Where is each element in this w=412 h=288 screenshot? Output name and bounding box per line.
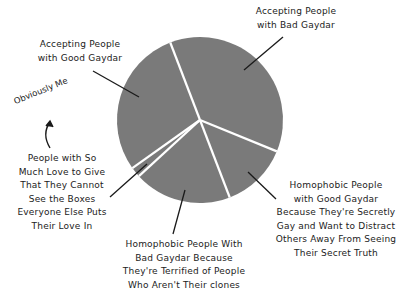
label-line: Gay and Want to Distract xyxy=(266,220,406,234)
label-line: Homophobic People With xyxy=(114,238,254,252)
label-line: Much Love to Give xyxy=(12,166,112,180)
label-line: Their Love In xyxy=(12,220,112,234)
leader-accepting-bad xyxy=(244,37,283,70)
label-line: with Bad Gaydar xyxy=(246,19,346,33)
label-line: They're Terrified of People xyxy=(114,265,254,279)
label-homophobic-good: Homophobic People with Good Gaydar Becau… xyxy=(266,179,406,260)
label-line: That They Cannot xyxy=(12,179,112,193)
label-line: with Good Gaydar xyxy=(266,193,406,207)
label-line: Because They're Secretly xyxy=(266,206,406,220)
arrow-icon xyxy=(46,121,53,148)
label-line: Others Away From Seeing xyxy=(266,233,406,247)
label-homophobic-bad: Homophobic People With Bad Gaydar Becaus… xyxy=(114,238,254,288)
label-line: Their Secret Truth xyxy=(266,247,406,261)
label-line: Bad Gaydar Because xyxy=(114,252,254,266)
label-so-much-love: People with So Much Love to Give That Th… xyxy=(12,152,112,233)
label-accepting-good: Accepting People with Good Gaydar xyxy=(30,38,130,65)
label-line: Accepting People xyxy=(246,5,346,19)
label-line: Who Aren't Their clones xyxy=(114,279,254,288)
leader-so-much-love xyxy=(110,164,147,197)
label-accepting-bad: Accepting People with Bad Gaydar xyxy=(246,5,346,32)
label-line: with Good Gaydar xyxy=(30,52,130,66)
label-line: People with So xyxy=(12,152,112,166)
label-line: Everyone Else Puts xyxy=(12,206,112,220)
label-line: See the Boxes xyxy=(12,193,112,207)
label-line: Accepting People xyxy=(30,38,130,52)
label-line: Homophobic People xyxy=(266,179,406,193)
